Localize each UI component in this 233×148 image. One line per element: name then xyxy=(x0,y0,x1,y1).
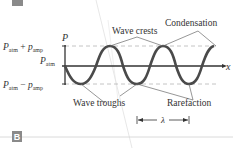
y-axis-label: P xyxy=(61,32,68,43)
x-axis-label: x xyxy=(225,61,231,72)
amplitude-reference-lines xyxy=(65,46,216,84)
wave-troughs-label: Wave troughs xyxy=(73,98,126,108)
wavelength-label: λ xyxy=(160,115,165,125)
pressure-wave-curve xyxy=(65,46,214,84)
panel-b-badge-text: B xyxy=(14,132,21,142)
middle-level-label: Patm xyxy=(39,56,55,67)
pressure-axis xyxy=(62,45,66,85)
wavelength-marker: λ xyxy=(137,115,189,125)
wave-troughs-leader-2 xyxy=(120,84,137,96)
pressure-wave-diagram: Patm + pamp Patm Patm − pamp P x Wave cr… xyxy=(0,0,233,148)
upper-level-label: Patm + pamp xyxy=(2,42,43,53)
rarefaction-label: Rarefaction xyxy=(167,98,212,108)
wave-crests-leader xyxy=(110,37,163,46)
lower-level-label: Patm − pamp xyxy=(2,80,43,91)
wave-crests-label: Wave crests xyxy=(112,26,158,36)
panel-b-badge: B xyxy=(12,131,22,142)
level-labels: Patm + pamp Patm Patm − pamp xyxy=(2,42,55,91)
panel-a-badge xyxy=(12,0,23,6)
condensation-label: Condensation xyxy=(165,18,217,28)
condensation-leader xyxy=(163,31,216,46)
